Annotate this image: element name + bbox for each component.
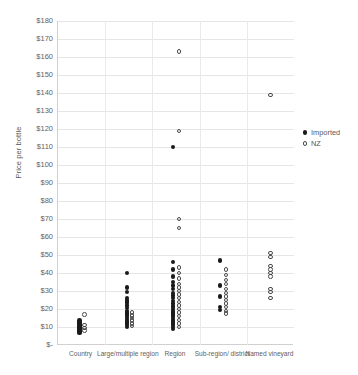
data-point-imported	[125, 290, 130, 295]
y-axis-tick-label: $170	[9, 34, 53, 43]
filled-circle-icon	[300, 130, 310, 134]
y-axis-tick-label: $140	[9, 88, 53, 97]
gridline	[58, 93, 294, 94]
y-axis-tick-label: $120	[9, 124, 53, 133]
plot-area	[57, 21, 293, 345]
data-point-imported	[218, 258, 223, 263]
y-axis-tick-label: $110	[9, 142, 53, 151]
gridline	[58, 147, 294, 148]
y-axis-tick-label: $150	[9, 70, 53, 79]
gridline	[58, 273, 294, 274]
y-axis-tick-label: $180	[9, 16, 53, 25]
data-point-nz	[177, 276, 182, 281]
data-point-imported	[218, 308, 223, 313]
y-axis-tick-label: $60	[9, 232, 53, 241]
category-separator	[105, 21, 106, 345]
gridline	[58, 183, 294, 184]
chart-legend: ImportedNZ	[300, 127, 340, 149]
data-point-nz	[224, 282, 229, 287]
legend-item: NZ	[300, 138, 340, 149]
category-separator	[247, 21, 248, 345]
gridline	[58, 21, 294, 22]
data-point-nz	[224, 267, 229, 272]
data-point-nz	[268, 255, 273, 260]
legend-marker	[303, 130, 307, 134]
gridline	[58, 111, 294, 112]
data-point-nz	[268, 296, 273, 301]
data-point-imported	[171, 327, 176, 332]
data-point-imported	[218, 283, 223, 288]
y-axis-tick-label: $20	[9, 304, 53, 313]
y-axis-tick-label: $40	[9, 268, 53, 277]
y-axis-tick-label: $70	[9, 214, 53, 223]
gridline	[58, 255, 294, 256]
data-point-nz	[177, 226, 182, 231]
data-point-nz	[177, 265, 182, 270]
data-point-imported	[171, 267, 176, 272]
gridline	[58, 291, 294, 292]
data-point-imported	[171, 145, 176, 150]
data-point-imported	[125, 271, 130, 276]
data-point-imported	[171, 260, 176, 265]
y-axis-tick-label: $130	[9, 106, 53, 115]
x-axis-tick-label: Named vineyard	[238, 350, 300, 359]
data-point-nz	[177, 325, 182, 330]
y-axis-tick-label: $30	[9, 286, 53, 295]
data-point-nz	[224, 311, 229, 316]
gridline	[58, 39, 294, 40]
data-point-nz	[268, 290, 273, 295]
y-axis-tick-label: $50	[9, 250, 53, 259]
y-axis-tick-label: $90	[9, 178, 53, 187]
data-point-nz	[177, 271, 182, 276]
y-axis-tick-label: $80	[9, 196, 53, 205]
data-point-nz	[268, 274, 273, 279]
data-point-nz	[224, 273, 229, 278]
data-point-imported	[125, 325, 130, 330]
gridline	[58, 309, 294, 310]
data-point-nz	[177, 49, 182, 54]
data-point-nz	[82, 312, 87, 317]
data-point-imported	[171, 274, 176, 279]
data-point-nz	[82, 328, 87, 333]
y-axis-tick-label: $160	[9, 52, 53, 61]
category-separator	[200, 21, 201, 345]
gridline	[58, 57, 294, 58]
gridline	[58, 129, 294, 130]
open-circle-icon	[300, 141, 310, 145]
data-point-nz	[177, 129, 182, 134]
gridline	[58, 75, 294, 76]
gridline	[58, 165, 294, 166]
gridline	[58, 201, 294, 202]
data-point-nz	[177, 217, 182, 222]
legend-label: NZ	[311, 139, 321, 148]
data-point-imported	[218, 294, 223, 299]
legend-item: Imported	[300, 127, 340, 138]
category-separator	[152, 21, 153, 345]
price-per-bottle-scatter-chart: Price per bottle $180$170$160$150$140$13…	[0, 0, 358, 375]
data-point-nz	[268, 93, 273, 98]
legend-marker	[303, 141, 307, 145]
y-axis-tick-label: $100	[9, 160, 53, 169]
gridline	[58, 327, 294, 328]
data-point-imported	[77, 331, 82, 336]
y-axis-tick-label: $-	[9, 340, 53, 349]
y-axis-tick-label: $10	[9, 322, 53, 331]
legend-label: Imported	[311, 128, 340, 137]
data-point-imported	[125, 285, 130, 290]
gridline	[58, 237, 294, 238]
gridline	[58, 219, 294, 220]
